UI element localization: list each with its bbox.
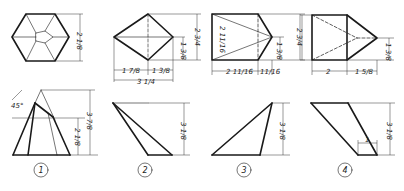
p4-w2: 1 5/8 xyxy=(355,68,373,76)
technical-drawing: 2 1/8 45° 3 7/8 2 1/8 1 2 3/4 1 3/8 xyxy=(0,0,404,191)
p1-front-view: 45° 3 7/8 2 1/8 xyxy=(11,90,98,155)
p1-front-h2: 2 1/8 xyxy=(73,128,81,146)
p3-h1: 1 3/8 xyxy=(275,42,283,60)
p1-angle: 45° xyxy=(11,102,23,110)
p2-number: 2 xyxy=(142,166,147,175)
p3-h-inner: 2 11/16 xyxy=(218,26,226,53)
p1-front-h1: 3 7/8 xyxy=(85,112,93,130)
p2-front-view: 3 1/8 xyxy=(113,103,190,155)
p1-top-view: 2 1/8 xyxy=(12,14,83,61)
p3-front-h: 3 1/8 xyxy=(278,122,286,140)
p3-top-view: 2 11/16 1 3/8 2 3/4 2 11/16 11/16 xyxy=(212,14,305,76)
p2-top-view: 2 3/4 1 3/8 1 7/8 1 3/8 3 1/4 xyxy=(114,14,201,86)
p4-front-view: 3 1/8 1 xyxy=(311,103,395,155)
p2-h1: 1 3/8 xyxy=(179,42,187,60)
p2-front-h: 3 1/8 xyxy=(179,122,187,140)
p2-w2: 1 3/8 xyxy=(152,67,170,75)
p4-small: 1 xyxy=(365,136,369,144)
p3-w2: 11/16 xyxy=(260,68,281,76)
p1-top-dim: 2 1/8 xyxy=(75,32,83,50)
p4-h1: 1 3/8 xyxy=(384,43,392,61)
p2-w1: 1 7/8 xyxy=(122,67,140,75)
p2-h2: 2 3/4 xyxy=(193,28,201,46)
p4-w1: 2 xyxy=(326,68,331,76)
p1-number: 1 xyxy=(38,166,43,175)
p3-number: 3 xyxy=(241,166,246,175)
p4-front-h: 3 1/8 xyxy=(385,122,393,140)
p2-w-total: 3 1/4 xyxy=(137,78,155,86)
p3-w1: 2 11/16 xyxy=(226,68,253,76)
p4-top-view: 1 3/8 2 1 5/8 xyxy=(300,15,394,76)
p3-front-view: 3 1/8 xyxy=(212,103,290,155)
p4-number: 4 xyxy=(342,166,347,175)
